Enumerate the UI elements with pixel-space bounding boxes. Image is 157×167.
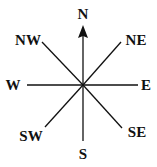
label-sw: SW [19, 128, 42, 144]
label-n: N [78, 6, 89, 22]
label-s: S [79, 146, 87, 162]
label-w: W [6, 77, 21, 93]
northwest-line [42, 42, 83, 85]
compass-rose: N NE E SE S SW W NW [0, 0, 157, 167]
southeast-line [83, 85, 122, 128]
label-ne: NE [126, 32, 147, 48]
label-se: SE [128, 124, 146, 140]
label-nw: NW [15, 32, 41, 48]
northeast-line [83, 42, 121, 85]
label-e: E [141, 77, 151, 93]
southwest-line [45, 85, 83, 127]
